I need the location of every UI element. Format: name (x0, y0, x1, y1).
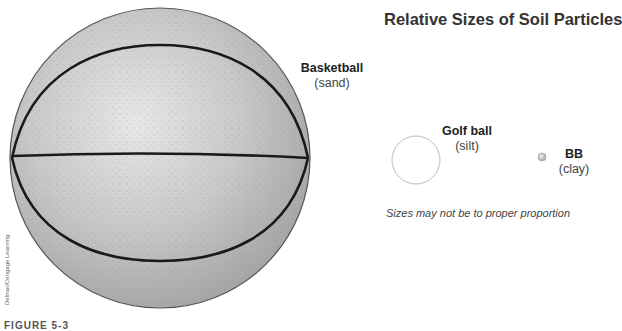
bb-name: BB (554, 147, 594, 162)
diagram-title: Relative Sizes of Soil Particles (384, 10, 622, 29)
bb-pellet-icon (538, 153, 546, 161)
proportion-note: Sizes may not be to proper proportion (386, 207, 570, 219)
basketball-icon (10, 8, 310, 308)
golf-ball-name: Golf ball (437, 124, 497, 139)
image-credit: Delmar/Cengage Learning (4, 225, 10, 305)
golf-ball-icon (392, 136, 440, 184)
bb-label: BB (clay) (554, 147, 594, 177)
golf-ball-label: Golf ball (silt) (437, 124, 497, 154)
basketball-label: Basketball (sand) (292, 61, 372, 91)
basketball-name: Basketball (292, 61, 372, 76)
golf-ball-soil-type: (silt) (437, 139, 497, 154)
bb-soil-type: (clay) (554, 162, 594, 177)
figure-caption: FIGURE 5-3 (4, 320, 69, 331)
basketball-soil-type: (sand) (292, 76, 372, 91)
